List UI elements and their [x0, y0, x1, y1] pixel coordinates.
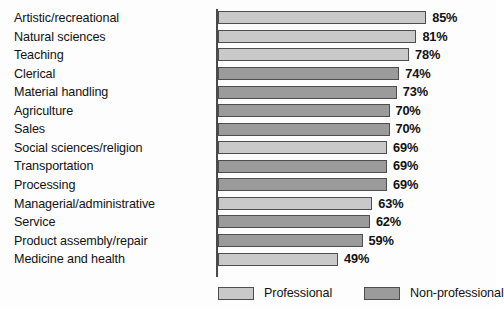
category-label: Transportation	[14, 157, 93, 176]
bar-value-label: 62%	[376, 213, 401, 232]
bar-value-label: 69%	[393, 176, 418, 195]
legend-item-professional[interactable]: Professional	[218, 284, 332, 302]
bar-value-label: 70%	[396, 102, 421, 121]
bar-nonprofessional[interactable]	[218, 123, 390, 136]
category-label: Managerial/administrative	[14, 195, 155, 214]
bar-value-label: 81%	[422, 28, 447, 47]
category-label: Material handling	[14, 83, 108, 102]
bar-value-label: 70%	[396, 120, 421, 139]
category-label: Agriculture	[14, 102, 73, 121]
category-label: Teaching	[14, 46, 64, 65]
bar-professional[interactable]	[218, 253, 338, 266]
bar-nonprofessional[interactable]	[218, 215, 370, 228]
category-label: Artistic/recreational	[14, 9, 119, 28]
legend-swatch-nonprofessional-icon	[364, 287, 400, 300]
category-label: Natural sciences	[14, 28, 106, 47]
bar-value-label: 69%	[393, 157, 418, 176]
category-label: Social sciences/religion	[14, 139, 143, 158]
plot-area: 85%81%78%74%73%70%70%69%69%69%63%62%59%4…	[216, 9, 446, 277]
bar-value-label: 74%	[405, 65, 430, 84]
category-label: Processing	[14, 176, 75, 195]
category-axis-labels: Artistic/recreationalNatural sciencesTea…	[0, 9, 212, 269]
chart-legend: Professional Non-professional	[216, 284, 496, 304]
legend-swatch-professional-icon	[218, 287, 254, 300]
bar-nonprofessional[interactable]	[218, 104, 390, 117]
legend-label-nonprofessional: Non-professional	[410, 286, 504, 300]
category-label: Clerical	[14, 65, 55, 84]
bar-value-label: 78%	[415, 46, 440, 65]
bar-value-label: 69%	[393, 139, 418, 158]
bar-value-label: 85%	[432, 9, 457, 28]
legend-label-professional: Professional	[264, 286, 332, 300]
category-label: Sales	[14, 120, 45, 139]
bar-professional[interactable]	[218, 11, 426, 24]
bar-value-label: 49%	[344, 250, 369, 269]
bar-nonprofessional[interactable]	[218, 160, 387, 173]
bar-nonprofessional[interactable]	[218, 178, 387, 191]
category-label: Medicine and health	[14, 250, 125, 269]
bar-nonprofessional[interactable]	[218, 67, 399, 80]
category-label: Product assembly/repair	[14, 232, 148, 251]
bar-professional[interactable]	[218, 30, 416, 43]
legend-item-nonprofessional[interactable]: Non-professional	[364, 284, 504, 302]
bar-nonprofessional[interactable]	[218, 234, 363, 247]
bar-value-label: 73%	[403, 83, 428, 102]
bar-professional[interactable]	[218, 48, 409, 61]
category-label: Service	[14, 213, 55, 232]
bar-nonprofessional[interactable]	[218, 86, 397, 99]
bar-value-label: 59%	[369, 232, 394, 251]
bar-value-label: 63%	[378, 195, 403, 214]
bar-professional[interactable]	[218, 197, 372, 210]
bar-professional[interactable]	[218, 141, 387, 154]
